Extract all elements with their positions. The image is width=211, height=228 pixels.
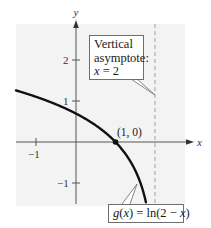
function-callout: g(x) = ln(2 − x) — [108, 204, 184, 223]
y-tick-label-2: 2 — [63, 54, 69, 66]
asymptote-callout: Vertical asymptote: x = 2 — [89, 35, 144, 80]
point-1-0 — [113, 139, 119, 145]
asymptote-callout-line2: asymptote: — [94, 52, 143, 66]
y-tick-label-1: 1 — [63, 95, 69, 107]
x-tick-label-neg1: −1 — [28, 148, 40, 160]
point-label: (1, 0) — [117, 126, 142, 139]
y-axis-label: y — [73, 6, 79, 18]
x-axis-arrow-icon — [186, 139, 194, 145]
asymptote-callout-line3: x = 2 — [94, 65, 143, 79]
asymptote-value: = 2 — [100, 64, 120, 78]
y-tick-label-neg1: −1 — [57, 177, 69, 189]
asymptote-callout-line1: Vertical — [94, 38, 143, 52]
x-axis-label: x — [196, 136, 202, 148]
fn-close: ) — [185, 206, 189, 220]
fn-mid: ) = ln(2 − — [129, 206, 180, 220]
